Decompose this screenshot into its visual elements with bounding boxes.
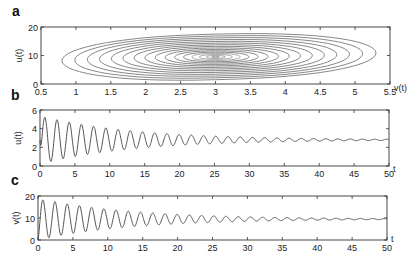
- x-tick-label: 25: [209, 169, 219, 179]
- contour-line: [123, 43, 312, 71]
- contour-line: [212, 56, 219, 57]
- x-tick-label: 1.5: [105, 87, 118, 97]
- x-tick-label: 10: [105, 169, 115, 179]
- x-tick-label: 40: [314, 169, 324, 179]
- x-tick-label: 10: [103, 243, 113, 253]
- axes-frame: [40, 110, 389, 166]
- x-tick-label: 20: [175, 169, 185, 179]
- panel-label-a: a: [12, 3, 20, 19]
- plot-canvas: 0.511.522.533.544.555.501020u(t)v(t) 051…: [0, 0, 418, 265]
- contour-line: [200, 55, 233, 60]
- x-tick-label: 2.5: [174, 87, 187, 97]
- x-tick-label: 4: [283, 87, 288, 97]
- contour-line: [175, 51, 259, 63]
- panel-label-c: c: [11, 172, 19, 188]
- y-axis-label: u(t): [13, 131, 23, 145]
- x-tick-label: 4.5: [314, 87, 327, 97]
- y-tick-label: 6: [32, 106, 37, 116]
- panel-b-u-timeseries: 051015202530354045500246u(t)t: [13, 106, 396, 180]
- series-line-u(t): [40, 117, 389, 161]
- y-tick-label: 0: [33, 80, 38, 90]
- x-tick-label: 45: [349, 169, 359, 179]
- y-tick-label: 20: [25, 192, 35, 202]
- panel-c-v-timeseries: 0510152025303540455001020v(t)t: [11, 192, 394, 254]
- x-tick-label: 0: [35, 243, 40, 253]
- x-tick-label: 15: [138, 243, 148, 253]
- x-tick-label: 1: [73, 87, 78, 97]
- panel-label-b: b: [11, 87, 20, 103]
- y-tick-label: 10: [25, 214, 35, 224]
- x-tick-label: 35: [279, 169, 289, 179]
- panel-a-contour-plot: 0.511.522.533.544.555.501020u(t)v(t): [14, 23, 407, 98]
- x-tick-label: 20: [173, 243, 183, 253]
- y-tick-label: 20: [28, 23, 38, 33]
- x-axis-label: t: [393, 164, 396, 174]
- y-tick-label: 4: [32, 124, 37, 134]
- y-axis-label: v(t): [11, 212, 21, 225]
- x-tick-label: 35: [277, 243, 287, 253]
- x-tick-label: 40: [312, 243, 322, 253]
- y-axis-label: u(t): [14, 49, 24, 63]
- x-tick-label: 3.5: [244, 87, 257, 97]
- x-tick-label: 5: [353, 87, 358, 97]
- x-axis-label: v(t): [394, 83, 407, 93]
- x-axis-label: t: [391, 234, 394, 244]
- contour-line: [165, 49, 268, 64]
- x-tick-label: 45: [347, 243, 357, 253]
- x-tick-label: 50: [382, 243, 392, 253]
- x-tick-label: 30: [242, 243, 252, 253]
- series-line-v(t): [38, 200, 387, 240]
- contour-line: [111, 41, 324, 72]
- y-tick-label: 2: [32, 143, 37, 153]
- x-tick-label: 5: [72, 169, 77, 179]
- y-tick-label: 0: [32, 162, 37, 172]
- x-tick-label: 0: [37, 169, 42, 179]
- x-tick-label: 30: [244, 169, 254, 179]
- y-tick-label: 0: [30, 236, 35, 246]
- x-tick-label: 3: [213, 87, 218, 97]
- x-tick-label: 2: [143, 87, 148, 97]
- x-tick-label: 15: [140, 169, 150, 179]
- contour-line: [134, 45, 301, 69]
- x-tick-label: 25: [207, 243, 217, 253]
- figure: a b c 0.511.522.533.544.555.501020u(t)v(…: [0, 0, 418, 265]
- x-tick-label: 5: [70, 243, 75, 253]
- y-tick-label: 10: [28, 51, 38, 61]
- contour-line: [206, 56, 225, 59]
